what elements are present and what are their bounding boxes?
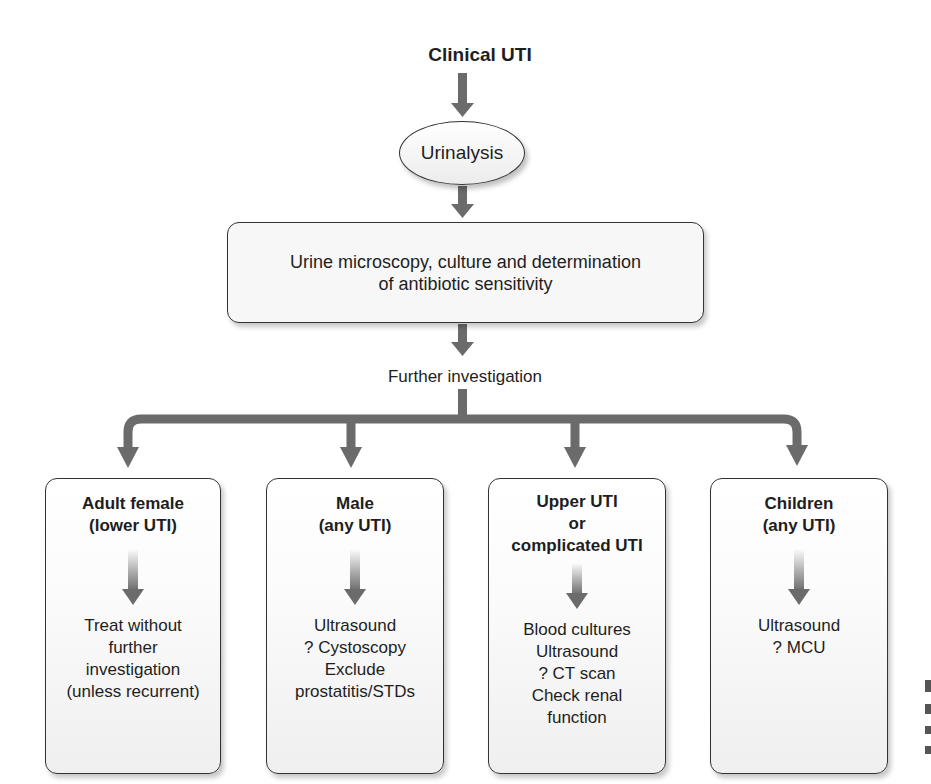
arrow-microscopy-to-further	[451, 324, 474, 356]
branch-actions: Ultrasound ? Cystoscopy Exclude prostati…	[267, 615, 443, 703]
action-line: ? CT scan	[489, 663, 665, 685]
branch-actions: Treat without further investigation (unl…	[46, 615, 220, 703]
heading-line: complicated UTI	[489, 535, 665, 557]
action-line: Ultrasound	[489, 641, 665, 663]
action-line: prostatitis/STDs	[267, 681, 443, 703]
cropped-edge-mark	[925, 704, 931, 714]
branch-actions: Ultrasound ? MCU	[711, 615, 887, 659]
microscopy-line-1: Urine microscopy, culture and determinat…	[290, 251, 641, 273]
action-line: Exclude	[267, 659, 443, 681]
branch-card-upper-complicated-uti: Upper UTI or complicated UTI Blood cultu…	[488, 478, 666, 774]
branch-heading: Male (any UTI)	[267, 493, 443, 537]
branch-heading: Adult female (lower UTI)	[46, 493, 220, 537]
heading-line: or	[489, 513, 665, 535]
branch-actions: Blood cultures Ultrasound ? CT scan Chec…	[489, 619, 665, 729]
cropped-edge-mark	[925, 680, 931, 692]
heading-line: (lower UTI)	[46, 515, 220, 537]
heading-line: (any UTI)	[711, 515, 887, 537]
action-line: Treat without	[46, 615, 220, 637]
branch-connector	[128, 389, 797, 450]
action-line: investigation	[46, 659, 220, 681]
branch-heading: Upper UTI or complicated UTI	[489, 491, 665, 557]
action-line: Check renal	[489, 685, 665, 707]
action-line: (unless recurrent)	[46, 681, 220, 703]
action-line: further	[46, 637, 220, 659]
cropped-edge-mark	[925, 726, 931, 734]
urinalysis-label: Urinalysis	[421, 142, 503, 164]
further-investigation-label: Further investigation	[300, 367, 630, 387]
branch-heading: Children (any UTI)	[711, 493, 887, 537]
branch-card-children: Children (any UTI) Ultrasound ? MCU	[710, 478, 888, 774]
start-node-clinical-uti: Clinical UTI	[380, 44, 580, 66]
heading-line: Children	[711, 493, 887, 515]
down-arrow-icon	[566, 563, 588, 609]
heading-line: (any UTI)	[267, 515, 443, 537]
action-line: Ultrasound	[711, 615, 887, 637]
heading-line: Upper UTI	[489, 491, 665, 513]
microscopy-line-2: of antibiotic sensitivity	[378, 273, 552, 295]
cropped-edge-mark	[925, 746, 931, 754]
action-line: ? MCU	[711, 637, 887, 659]
down-arrow-icon	[344, 549, 366, 605]
heading-line: Male	[267, 493, 443, 515]
heading-line: Adult female	[46, 493, 220, 515]
down-arrow-icon	[788, 549, 810, 605]
arrow-urinalysis-to-microscopy	[451, 186, 474, 218]
arrow-title-to-urinalysis	[451, 73, 474, 117]
action-line: function	[489, 707, 665, 729]
microscopy-culture-node: Urine microscopy, culture and determinat…	[227, 222, 704, 323]
action-line: Blood cultures	[489, 619, 665, 641]
branch-arrowheads	[117, 445, 808, 468]
urinalysis-node: Urinalysis	[399, 121, 525, 185]
branch-card-male: Male (any UTI) Ultrasound ? Cystoscopy E…	[266, 478, 444, 774]
branch-card-adult-female: Adult female (lower UTI) Treat without f…	[45, 478, 221, 774]
action-line: Ultrasound	[267, 615, 443, 637]
down-arrow-icon	[122, 549, 144, 605]
action-line: ? Cystoscopy	[267, 637, 443, 659]
